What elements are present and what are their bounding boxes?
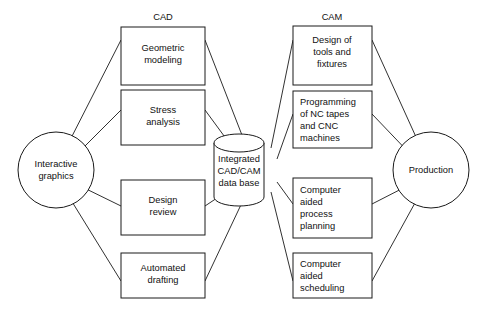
interactive-graphics-label-line1: Interactive (35, 159, 78, 169)
cam-box-process-planning[interactable]: Computer aided process planning (293, 178, 372, 238)
column-heading-cam: CAM (322, 12, 343, 22)
cad-box-geometric-modeling-line2: modeling (144, 55, 182, 65)
cad-box-automated-drafting-line1: Automated (141, 263, 186, 273)
cam-box-design-of-tools-line1: Design of (312, 35, 352, 45)
cam-box-programming-nc-line4: machines (300, 133, 340, 143)
cam-box-programming-nc-line1: Programming (300, 97, 356, 107)
node-interactive-graphics[interactable]: Interactive graphics (18, 132, 94, 208)
link-database-to-scheduling (271, 192, 293, 281)
node-production[interactable]: Production (393, 132, 469, 208)
cad-box-stress-analysis[interactable]: Stress analysis (121, 90, 205, 145)
cam-box-process-planning-line1: Computer (300, 185, 341, 195)
cad-box-design-review-line1: Design (149, 195, 178, 205)
cad-box-stress-analysis-line2: analysis (146, 117, 180, 127)
cam-box-programming-nc-line2: of NC tapes (300, 109, 349, 119)
link-graphics-to-automated-drafting (66, 192, 121, 281)
link-database-to-process-planning (277, 182, 293, 204)
cam-box-programming-nc[interactable]: Programming of NC tapes and CNC machines (293, 91, 372, 148)
cad-box-design-review-line2: review (150, 207, 177, 217)
cad-box-design-review[interactable]: Design review (121, 180, 205, 235)
cam-box-design-of-tools-line2: tools and (313, 47, 351, 57)
cad-box-geometric-modeling[interactable]: Geometric modeling (121, 27, 205, 85)
link-design-of-tools-to-production (372, 40, 421, 148)
database-label-line2: CAD/CAM (218, 166, 261, 176)
link-database-to-design-of-tools (271, 40, 293, 148)
link-database-to-programming-nc (277, 114, 293, 159)
column-heading-cad: CAD (153, 12, 173, 22)
cad-box-automated-drafting[interactable]: Automated drafting (121, 253, 205, 298)
database-cylinder-top (214, 134, 264, 152)
diagram-canvas: CAD CAM Interactive graphics Production … (0, 0, 486, 316)
cam-box-design-of-tools-line3: fixtures (317, 59, 347, 69)
cad-box-stress-analysis-line1: Stress (150, 105, 177, 115)
cam-box-process-planning-line3: process (300, 209, 333, 219)
cam-box-scheduling-line2: aided (300, 271, 323, 281)
database-label-line1: Integrated (218, 154, 260, 164)
node-integrated-database[interactable]: Integrated CAD/CAM data base (214, 134, 264, 206)
cam-box-design-of-tools[interactable]: Design of tools and fixtures (293, 26, 372, 85)
cam-box-scheduling[interactable]: Computer aided scheduling (293, 253, 372, 298)
database-label-line3: data base (219, 178, 260, 188)
interactive-graphics-circle (18, 132, 94, 208)
link-scheduling-to-production (372, 192, 421, 281)
interactive-graphics-label-line2: graphics (38, 171, 73, 181)
links-database-to-cam (271, 40, 293, 281)
cam-box-process-planning-line4: planning (300, 221, 335, 231)
diagram-figure: CAD CAM Interactive graphics Production … (0, 0, 486, 316)
link-geometric-modeling-to-database (205, 40, 247, 148)
cam-box-scheduling-line3: scheduling (300, 283, 344, 293)
cam-box-programming-nc-line3: and CNC (300, 121, 339, 131)
cad-box-geometric-modeling-line1: Geometric (142, 43, 185, 53)
cam-box-process-planning-line2: aided (300, 197, 323, 207)
cad-box-automated-drafting-line2: drafting (147, 275, 178, 285)
production-label-line1: Production (409, 165, 453, 175)
cam-box-scheduling-line1: Computer (300, 259, 341, 269)
link-graphics-to-geometric-modeling (66, 40, 121, 148)
